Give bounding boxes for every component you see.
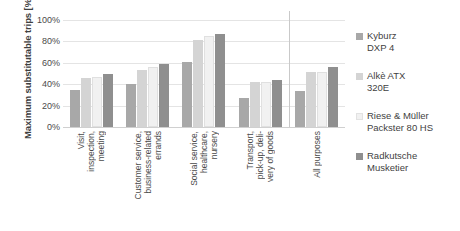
- y-axis-tick: 0%: [27, 122, 60, 132]
- x-axis-label-line: nursery: [209, 131, 219, 159]
- legend-label: Riese & Müller Packster 80 HS: [367, 110, 433, 134]
- bar: [272, 80, 282, 127]
- x-axis-label-line: Transport,: [245, 131, 255, 169]
- bar: [328, 67, 338, 127]
- bar: [81, 78, 91, 127]
- bar-group: [119, 20, 175, 127]
- legend-swatch-icon: [356, 113, 363, 120]
- axis-baseline: [63, 127, 345, 128]
- x-axis-tick-labels: Visit,inspection,meetingCustomer service…: [63, 131, 345, 231]
- x-axis-label-line: pick-up, deli-: [255, 131, 265, 179]
- x-axis-label-line: All purposes: [312, 131, 322, 178]
- legend-label: Radkutsche Musketier: [367, 150, 417, 174]
- y-axis-tick: 40%: [27, 79, 60, 89]
- x-axis-category-label: Visit,inspection,meeting: [63, 131, 119, 229]
- bar: [70, 90, 80, 127]
- x-axis-category-label: All purposes: [289, 131, 345, 229]
- bar: [295, 91, 305, 127]
- bar: [148, 67, 158, 127]
- x-axis-label-line: business-related: [143, 131, 153, 193]
- bar-group: [63, 20, 119, 127]
- bar: [317, 72, 327, 127]
- bar: [239, 98, 249, 127]
- x-axis-label-line: healthcare,: [199, 131, 209, 173]
- legend-item[interactable]: Riese & Müller Packster 80 HS: [356, 110, 460, 134]
- x-axis-label-line: Visit,: [76, 131, 86, 149]
- bar-group: [289, 20, 345, 127]
- bar: [204, 36, 214, 127]
- bar: [159, 64, 169, 127]
- x-axis-label-line: Social service,: [189, 131, 199, 186]
- legend-item[interactable]: Alkè ATX 320E: [356, 70, 460, 94]
- x-axis-label-line: meeting: [96, 131, 106, 161]
- x-axis-label-line: Customer service,: [133, 131, 143, 200]
- x-axis-category-label: Social service,healthcare,nursery: [176, 131, 232, 229]
- y-axis-tick: 20%: [27, 101, 60, 111]
- bar: [215, 34, 225, 127]
- y-axis-tick: 100%: [27, 15, 60, 25]
- y-axis-tick: 80%: [27, 36, 60, 46]
- bar: [306, 72, 316, 127]
- legend-item[interactable]: Kyburz DXP 4: [356, 30, 460, 54]
- legend-label: Kyburz DXP 4: [367, 30, 397, 54]
- plot-area: [63, 20, 345, 127]
- x-axis-category-label: Customer service,business-relatederrands: [119, 131, 175, 229]
- x-axis-label-line: inspection,: [86, 131, 96, 172]
- chart-legend: Kyburz DXP 4Alkè ATX 320ERiese & Müller …: [356, 30, 460, 190]
- legend-swatch-icon: [356, 153, 363, 160]
- bar: [137, 70, 147, 127]
- bar: [103, 74, 113, 128]
- legend-item[interactable]: Radkutsche Musketier: [356, 150, 460, 174]
- legend-swatch-icon: [356, 73, 363, 80]
- x-axis-category-label: Transport,pick-up, deli-very of goods: [232, 131, 288, 229]
- legend-label: Alkè ATX 320E: [367, 70, 405, 94]
- y-axis-tick: 60%: [27, 58, 60, 68]
- bar-group: [232, 20, 288, 127]
- y-axis-tick-labels: 100%80%60%40%20%0%: [27, 14, 60, 128]
- bar: [193, 40, 203, 127]
- x-axis-label-line: errands: [153, 131, 163, 160]
- bar: [261, 82, 271, 127]
- bar-chart: Maximum substitutable trips [%] 100%80%6…: [0, 0, 460, 231]
- bar: [182, 62, 192, 127]
- bar-group: [176, 20, 232, 127]
- x-axis-label-line: very of goods: [265, 131, 275, 182]
- bar: [250, 82, 260, 127]
- legend-swatch-icon: [356, 33, 363, 40]
- bar: [126, 84, 136, 127]
- bar: [92, 77, 102, 127]
